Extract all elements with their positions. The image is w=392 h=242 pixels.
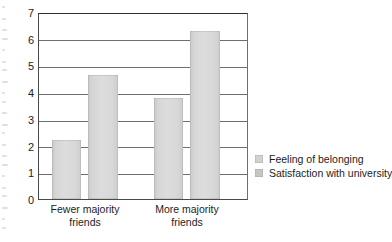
y-axis-tick-1: 1	[18, 168, 34, 179]
x-axis-category-0: Fewer majority friends	[38, 203, 132, 228]
legend-item-belonging: Feeling of belonging	[255, 152, 389, 165]
chart-legend: Feeling of belonging Satisfaction with u…	[255, 152, 389, 180]
legend-swatch-belonging-icon	[255, 155, 263, 163]
y-axis-tick-4: 4	[18, 88, 34, 99]
legend-item-satisfaction: Satisfaction with university	[255, 166, 389, 179]
legend-label-belonging: Feeling of belonging	[269, 153, 364, 165]
page-edge-artifacts	[0, 6, 10, 238]
y-axis-tick-6: 6	[18, 35, 34, 46]
bar-satisfaction-more	[190, 31, 220, 199]
bar-satisfaction-fewer	[88, 75, 118, 199]
bar-belonging-more	[154, 98, 183, 200]
y-axis-tick-7: 7	[18, 8, 34, 19]
legend-swatch-satisfaction-icon	[255, 169, 263, 177]
y-axis-tick-labels: 0 1 2 3 4 5 6 7	[18, 0, 34, 242]
bar-group-container	[39, 14, 247, 199]
x-axis-category-labels: Fewer majority friends More majority fri…	[38, 203, 248, 239]
y-axis-tick-0: 0	[18, 195, 34, 206]
y-axis-tick-3: 3	[18, 115, 34, 126]
plot-area	[38, 13, 248, 200]
x-axis-category-1: More majority friends	[140, 203, 234, 228]
y-axis-tick-5: 5	[18, 61, 34, 72]
bar-belonging-fewer	[52, 140, 81, 199]
y-axis-tick-2: 2	[18, 142, 34, 153]
legend-label-satisfaction: Satisfaction with university	[269, 167, 392, 179]
